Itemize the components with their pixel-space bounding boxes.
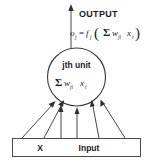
formula-open-paren: ( xyxy=(94,25,99,42)
unit-sum-symbol: Σ xyxy=(55,76,62,88)
input-connection-3 xyxy=(59,105,64,138)
formula-sum-symbol: Σ xyxy=(103,26,110,38)
output-formula: o j = f j ( Σ w ji x i ) xyxy=(70,25,140,42)
input-layer-box xyxy=(13,139,141,157)
formula-equals: = xyxy=(79,28,84,38)
formula-close-paren: ) xyxy=(135,25,140,42)
input-connection-6 xyxy=(100,100,125,139)
unit-label: jth unit xyxy=(61,60,90,70)
input-label-input: Input xyxy=(79,143,100,153)
input-connection-4 xyxy=(75,107,80,138)
formula-function-subscript: j xyxy=(89,34,92,40)
formula-input-symbol: x xyxy=(126,28,131,38)
formula-lhs-subscript: j xyxy=(74,34,77,40)
unit-input-symbol: x xyxy=(79,78,84,88)
diagram-canvas: OUTPUT o j = f j ( Σ w ji x i ) jth unit… xyxy=(0,0,151,164)
unit-weight-subscript: ji xyxy=(69,84,74,90)
output-label: OUTPUT xyxy=(79,9,118,19)
input-label-x: X xyxy=(37,143,43,153)
input-connection-5 xyxy=(90,100,99,138)
output-arrow xyxy=(68,4,73,48)
input-connection-1 xyxy=(22,101,56,138)
formula-input-subscript: i xyxy=(132,34,134,40)
formula-weight-subscript: ji xyxy=(117,34,122,40)
neuron-diagram: OUTPUT o j = f j ( Σ w ji x i ) jth unit… xyxy=(0,0,151,164)
